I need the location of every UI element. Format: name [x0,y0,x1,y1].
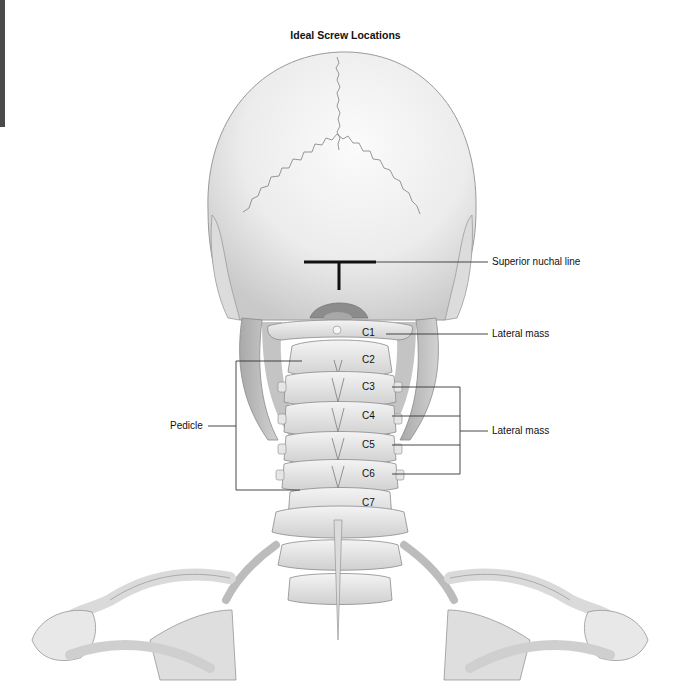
vertebra-label-c7: C7 [362,497,375,508]
skull [208,52,476,324]
shoulder-girdle [32,506,648,680]
label-pedicle: Pedicle [170,420,203,431]
vertebra-label-c6: C6 [362,468,375,479]
label-superior-nuchal-line: Superior nuchal line [492,256,580,267]
label-lateral-mass-c3-c6: Lateral mass [492,425,549,436]
cervical-spine-illustration [0,0,691,681]
label-lateral-mass-c1: Lateral mass [492,328,549,339]
vertebra-label-c4: C4 [362,410,375,421]
vertebra-label-c2: C2 [362,354,375,365]
vertebra-label-c3: C3 [362,381,375,392]
vertebra-label-c5: C5 [362,439,375,450]
vertebra-label-c1: C1 [362,327,375,338]
cervical-vertebrae [268,320,413,524]
